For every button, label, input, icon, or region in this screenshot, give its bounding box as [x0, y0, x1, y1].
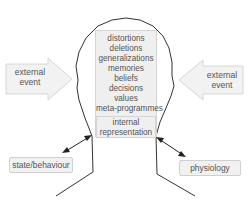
filter-deletions: deletions — [96, 44, 156, 54]
filter-beliefs: beliefs — [96, 74, 156, 84]
filter-values: values — [96, 94, 156, 104]
filter-generalizations: generalizations — [96, 54, 156, 64]
internal-representation-box: internal representation — [96, 116, 156, 138]
external-event-right-label: external event — [200, 70, 244, 90]
internal-representation-line1: internal — [97, 118, 155, 128]
filter-decisions: decisions — [96, 84, 156, 94]
external-event-left-line1: external — [8, 67, 52, 77]
filter-distortions: distortions — [96, 34, 156, 44]
filter-memories: memories — [96, 64, 156, 74]
internal-representation-line2: representation — [97, 128, 155, 138]
state-behaviour-double-arrow — [62, 135, 92, 153]
state-behaviour-box: state/behaviour — [9, 157, 73, 173]
external-event-left-label: external event — [8, 67, 52, 87]
external-event-right-line1: external — [200, 70, 244, 80]
physiology-box: physiology — [179, 160, 241, 176]
filter-meta-programmes: meta-programmes — [96, 104, 156, 114]
external-event-left-line2: event — [8, 77, 52, 87]
physiology-double-arrow — [156, 137, 186, 157]
external-event-right-line2: event — [200, 80, 244, 90]
